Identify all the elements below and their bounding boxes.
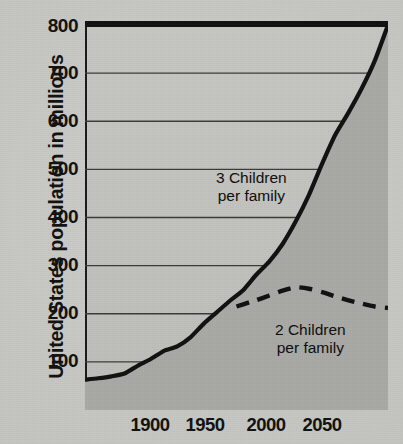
x-tick-2050: 2050 [302,414,341,436]
y-tick-300: 300 [26,254,78,276]
y-tick-500: 500 [26,158,78,180]
two-children-line2: per family [275,339,346,357]
x-tick-1900: 1900 [130,414,169,436]
y-tick-100: 100 [26,350,78,372]
two-children-annotation: 2 Children per family [275,321,346,357]
x-tick-1950: 1950 [185,414,224,436]
y-tick-400: 400 [26,206,78,228]
three-children-line1: 3 Children [216,169,287,187]
three-children-line2: per family [216,187,287,205]
y-tick-700: 700 [26,62,78,84]
x-tick-2000: 2000 [246,414,285,436]
three-children-annotation: 3 Children per family [216,169,287,205]
y-tick-600: 600 [26,110,78,132]
chart-plot-area: 3 Children per family 2 Children per fam… [85,25,388,410]
y-tick-200: 200 [26,302,78,324]
two-children-line1: 2 Children [275,321,346,339]
y-tick-800: 800 [26,15,78,37]
y-axis-tick-labels: 800 700 600 500 400 300 200 100 [26,0,78,444]
